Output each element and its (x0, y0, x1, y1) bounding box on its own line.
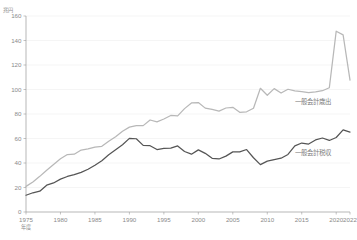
x-axis-tick-label: 2005 (226, 216, 240, 223)
x-axis-tick-label: 1985 (88, 216, 102, 223)
y-axis-tick-label: 160 (11, 12, 22, 19)
x-axis-tick-label: 1975 (19, 216, 33, 223)
y-axis-tick-label: 40 (15, 159, 22, 166)
x-axis-tick-label: 1990 (123, 216, 137, 223)
x-axis-tick-label: 2010 (260, 216, 274, 223)
chart-container: 兆円 0204060801001201401601975198019851990… (0, 0, 357, 240)
y-axis-tick-label: 80 (15, 110, 22, 117)
series-annotation-label: 一般会計歳出 (295, 97, 331, 106)
line-chart: 0204060801001201401601975198019851990199… (0, 0, 357, 240)
x-axis-tick-label: 2022 (343, 216, 357, 223)
y-axis-tick-label: 120 (11, 61, 22, 68)
y-axis-tick-label: 60 (15, 135, 22, 142)
x-axis-tick-label: 2015 (295, 216, 309, 223)
y-axis-tick-label: 100 (11, 86, 22, 93)
x-axis-label: 年度 (21, 223, 31, 231)
x-axis-tick-label: 2020 (329, 216, 343, 223)
series-line (26, 130, 350, 195)
y-axis-tick-label: 20 (15, 184, 22, 191)
y-axis-tick-label: 0 (18, 208, 22, 215)
x-axis-tick-label: 2000 (191, 216, 205, 223)
series-annotation-label: 一般会計税収 (295, 148, 332, 157)
x-axis-tick-label: 1980 (54, 216, 68, 223)
x-axis-tick-label: 1995 (157, 216, 171, 223)
y-axis-unit-label: 兆円 (3, 6, 13, 13)
y-axis-tick-label: 140 (11, 37, 22, 44)
